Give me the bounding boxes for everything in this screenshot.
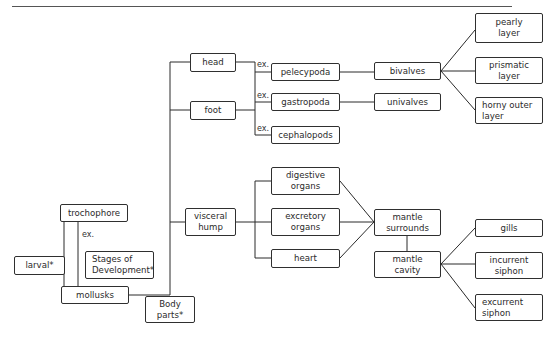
node-bivalves: bivalves	[374, 62, 441, 80]
node-digestive-organs: digestive organs	[271, 167, 340, 195]
node-label: visceral hump	[194, 211, 227, 233]
node-body-parts: Body parts*	[145, 296, 195, 323]
node-excretory-organs: excretory organs	[271, 208, 340, 236]
node-univalves: univalves	[374, 93, 441, 111]
node-label: horny outer layer	[482, 100, 532, 122]
link-label-ex: ex.	[257, 124, 269, 133]
node-gills: gills	[475, 219, 543, 237]
node-pearly-layer: pearly layer	[475, 13, 543, 43]
node-heart: heart	[271, 249, 340, 268]
node-label: mollusks	[76, 290, 114, 301]
node-head: head	[190, 53, 236, 72]
node-label: trochophore	[68, 208, 120, 219]
node-gastropoda: gastropoda	[271, 93, 340, 111]
node-label: Stages of Development*	[92, 254, 154, 276]
node-prismatic-layer: prismatic layer	[475, 57, 543, 84]
node-label: Body parts*	[157, 299, 183, 321]
node-label: univalves	[387, 97, 428, 108]
node-larval: larval*	[14, 256, 65, 275]
node-foot: foot	[190, 101, 236, 120]
node-label: excretory organs	[285, 211, 326, 233]
node-cephalopods: cephalopods	[271, 126, 340, 144]
node-horny-outer-layer: horny outer layer	[475, 97, 543, 124]
node-mantle-cavity: mantle cavity	[374, 251, 441, 278]
node-label: mantle cavity	[392, 254, 422, 276]
link-label-ex: ex.	[257, 91, 269, 100]
node-label: larval*	[25, 260, 53, 271]
node-label: mantle surrounds	[386, 212, 429, 234]
node-label: bivalves	[390, 66, 425, 77]
link-label-ex: ex.	[257, 60, 269, 69]
node-label: pelecypoda	[281, 67, 331, 78]
node-label: gastropoda	[281, 97, 330, 108]
node-label: head	[202, 57, 223, 68]
node-label: foot	[205, 105, 222, 116]
node-label: excurrent siphon	[482, 297, 523, 319]
node-label: pearly layer	[495, 17, 522, 39]
node-label: incurrent siphon	[490, 255, 529, 277]
node-mantle-surrounds: mantle surrounds	[374, 209, 441, 236]
node-trochophore: trochophore	[60, 204, 128, 222]
node-mollusks: mollusks	[61, 286, 129, 304]
node-label: cephalopods	[278, 130, 332, 141]
node-label: heart	[294, 253, 317, 264]
node-visceral-hump: visceral hump	[185, 208, 236, 236]
node-pelecypoda: pelecypoda	[271, 63, 340, 81]
node-label: prismatic layer	[489, 60, 529, 82]
link-label-ex: ex.	[82, 230, 94, 239]
node-label: digestive organs	[286, 170, 325, 192]
node-excurrent-siphon: excurrent siphon	[475, 294, 543, 321]
node-label: gills	[500, 223, 517, 234]
node-stages-of-development: Stages of Development*	[85, 251, 154, 279]
node-incurrent-siphon: incurrent siphon	[475, 252, 543, 279]
